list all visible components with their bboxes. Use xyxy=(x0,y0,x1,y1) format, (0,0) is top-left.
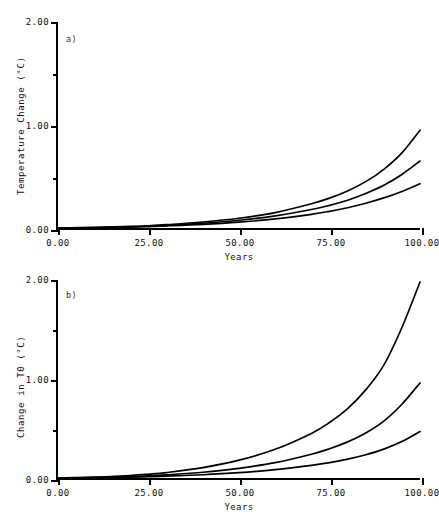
y-tick xyxy=(51,22,58,24)
x-tick xyxy=(422,478,424,485)
curves-a xyxy=(58,22,420,228)
x-tick xyxy=(58,478,60,485)
y-tick xyxy=(51,280,58,282)
x-tick xyxy=(331,228,333,235)
data-curve-upper xyxy=(58,130,420,228)
y-tick xyxy=(53,74,58,76)
x-tick xyxy=(422,228,424,235)
y-tick xyxy=(51,380,58,382)
x-tick xyxy=(149,228,151,235)
y-tick xyxy=(53,178,58,180)
panel-b: Change in T0 (°C) b) Years 0.001.002.000… xyxy=(0,258,438,508)
plot-area-a: Years 0.001.002.000.0025.0050.0075.00100… xyxy=(56,22,420,230)
x-tick-label: 25.00 xyxy=(134,488,163,498)
x-tick-label: 50.00 xyxy=(225,488,254,498)
y-tick xyxy=(53,330,58,332)
x-tick xyxy=(149,478,151,485)
data-curve-lower xyxy=(58,184,420,228)
y-tick-label: 2.00 xyxy=(26,17,49,27)
x-tick-label: 50.00 xyxy=(225,238,254,248)
y-tick-label: 0.00 xyxy=(26,475,49,485)
y-tick-label: 1.00 xyxy=(26,121,49,131)
figure-caption xyxy=(8,516,432,526)
x-axis-title-b: Years xyxy=(224,502,253,512)
y-axis-title-b: Change in T0 (°C) xyxy=(16,336,26,438)
x-tick xyxy=(331,478,333,485)
data-curve-middle xyxy=(58,383,420,478)
y-tick xyxy=(51,230,58,232)
curves-b xyxy=(58,280,420,478)
x-tick-label: 0.00 xyxy=(46,238,69,248)
x-tick xyxy=(58,228,60,235)
data-curve-lower xyxy=(58,431,420,478)
y-tick-label: 1.00 xyxy=(26,375,49,385)
y-tick xyxy=(51,126,58,128)
y-tick-label: 0.00 xyxy=(26,225,49,235)
x-tick-label: 75.00 xyxy=(316,238,345,248)
plot-area-b: Years 0.001.002.000.0025.0050.0075.00100… xyxy=(56,280,420,480)
x-tick-label: 75.00 xyxy=(316,488,345,498)
y-axis-title-a: Temperature Change (°C) xyxy=(16,57,26,195)
x-tick xyxy=(240,478,242,485)
data-curve-upper xyxy=(58,282,420,478)
x-tick xyxy=(240,228,242,235)
y-tick xyxy=(51,480,58,482)
x-tick-label: 100.00 xyxy=(405,238,439,248)
y-tick xyxy=(53,430,58,432)
x-tick-label: 25.00 xyxy=(134,238,163,248)
y-tick-label: 2.00 xyxy=(26,275,49,285)
x-tick-label: 100.00 xyxy=(405,488,439,498)
x-tick-label: 0.00 xyxy=(46,488,69,498)
panel-a: Temperature Change (°C) a) Years 0.001.0… xyxy=(0,0,438,264)
